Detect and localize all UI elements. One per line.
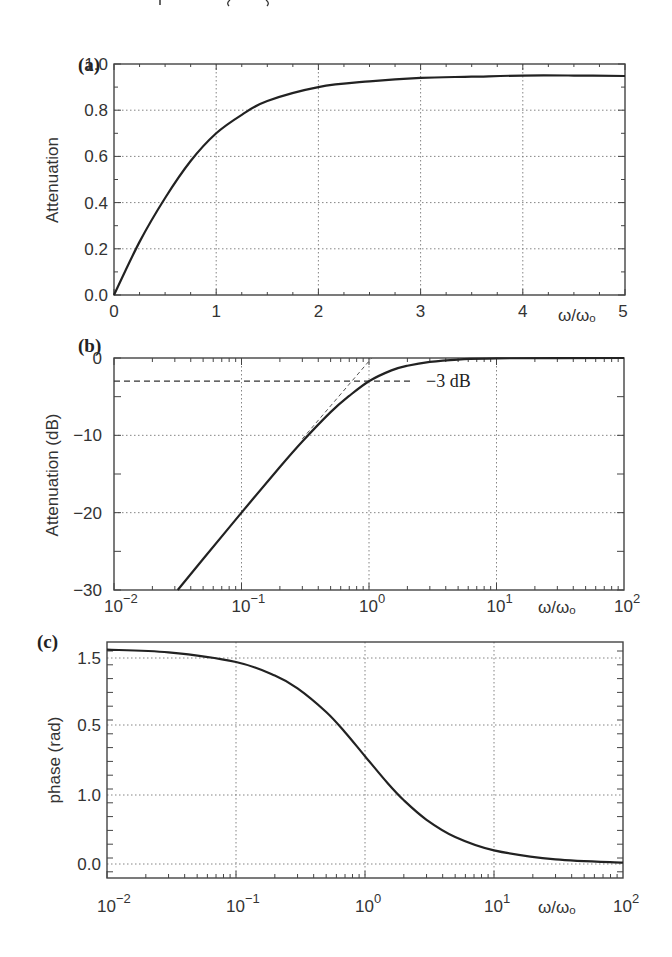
x-tick-label: 3 bbox=[416, 302, 425, 321]
minus-3db-annotation: −3 dB bbox=[426, 371, 471, 391]
x-tick-label: 10−2 bbox=[97, 891, 131, 916]
x-tick-label: 2 bbox=[314, 302, 323, 321]
y-axis-title: Attenuation (dB) bbox=[43, 414, 62, 537]
panel-b-attenuation-db: −3 dB (b) 0−10−20−30 10−210−1100101102 A… bbox=[43, 335, 640, 617]
x-tick-label: 4 bbox=[518, 302, 527, 321]
y-tick-label: 0 bbox=[93, 349, 102, 368]
panel-a-attenuation-linear: (a) 0.00.20.40.60.81.0 012345 Attenuatio… bbox=[43, 54, 628, 325]
x-tick-label: 100 bbox=[359, 591, 385, 616]
x-tick-label: 10−1 bbox=[226, 891, 260, 916]
attenuation-curve bbox=[114, 75, 625, 295]
x-tick-label: 5 bbox=[618, 302, 627, 321]
x-tick-label: 0 bbox=[109, 302, 118, 321]
y-tick-labels: 0−10−20−30 bbox=[73, 349, 102, 600]
grid-lines bbox=[107, 642, 623, 878]
plot-frame bbox=[114, 64, 625, 295]
x-tick-label: 10−1 bbox=[232, 591, 266, 616]
grid-lines bbox=[114, 358, 624, 590]
figure: (a) 0.00.20.40.60.81.0 012345 Attenuatio… bbox=[0, 0, 672, 957]
x-axis-title: ω/ωₒ bbox=[538, 898, 576, 917]
y-tick-label: 1.0 bbox=[84, 55, 108, 74]
x-tick-labels: 012345 bbox=[109, 302, 627, 321]
x-tick-label: 1 bbox=[211, 302, 220, 321]
y-tick-label: 1.0 bbox=[77, 786, 101, 805]
x-tick-label: 100 bbox=[355, 891, 381, 916]
attenuation-db-curve bbox=[178, 358, 624, 590]
asymptote-line bbox=[302, 358, 371, 439]
y-axis-title: phase (rad) bbox=[45, 717, 64, 804]
y-tick-label: 0.2 bbox=[84, 240, 108, 259]
x-tick-label: 101 bbox=[487, 591, 513, 616]
x-axis-title: ω/ωₒ bbox=[558, 306, 596, 325]
y-tick-label: 0.6 bbox=[84, 147, 108, 166]
x-tick-label: 10−2 bbox=[104, 591, 138, 616]
x-axis-title: ω/ωₒ bbox=[538, 598, 576, 617]
y-tick-label: 0.0 bbox=[77, 855, 101, 874]
y-tick-label: 0.8 bbox=[84, 101, 108, 120]
axis-ticks bbox=[107, 651, 623, 878]
axis-ticks bbox=[114, 64, 625, 295]
y-tick-labels: 0.00.20.40.60.81.0 bbox=[84, 55, 108, 305]
formula-fragment bbox=[160, 0, 268, 6]
grid-lines bbox=[114, 64, 625, 295]
x-tick-label: 102 bbox=[613, 891, 639, 916]
y-tick-label: −30 bbox=[73, 581, 102, 600]
y-tick-label: 0.5 bbox=[77, 716, 101, 735]
x-tick-label: 102 bbox=[614, 591, 640, 616]
y-tick-label: 0.4 bbox=[84, 194, 108, 213]
y-tick-label: 0.0 bbox=[84, 286, 108, 305]
y-tick-label: 1.5 bbox=[77, 649, 101, 668]
panel-c-phase: (c) 1.50.51.00.0 10−210−1100101102 phase… bbox=[37, 631, 639, 917]
y-tick-label: −10 bbox=[73, 426, 102, 445]
panel-label: (c) bbox=[37, 631, 58, 653]
x-tick-label: 101 bbox=[484, 891, 510, 916]
y-axis-title: Attenuation bbox=[43, 137, 62, 223]
y-tick-label: −20 bbox=[73, 504, 102, 523]
y-tick-labels: 1.50.51.00.0 bbox=[77, 649, 101, 874]
